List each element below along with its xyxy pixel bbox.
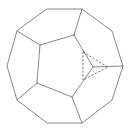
polyhedron-edge: [37, 83, 72, 97]
polyhedron-edge: [93, 66, 123, 67]
polyhedron-edge: [40, 35, 74, 45]
polyhedron-diagram: [0, 0, 129, 128]
polyhedron-edge: [17, 31, 40, 45]
polyhedron-edge: [37, 45, 40, 83]
polyhedron-edge: [74, 9, 82, 35]
polyhedron-edge: [72, 67, 93, 97]
polyhedron-edge: [17, 83, 37, 100]
outer-outline: [7, 9, 123, 123]
polyhedron-edge: [74, 35, 93, 67]
polyhedron-edge: [72, 97, 82, 123]
